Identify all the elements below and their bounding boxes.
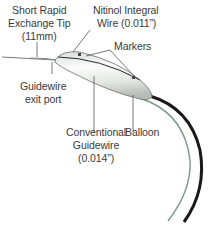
label-conventional-guidewire: Conventional Guidewire (0.014”) bbox=[66, 126, 126, 165]
leader-nitinol bbox=[73, 30, 90, 52]
catheter-shaft bbox=[150, 96, 202, 222]
label-balloon: Balloon bbox=[125, 126, 159, 139]
label-nitinol-integral-wire: Nitinol Integral Wire (0.011”) bbox=[93, 4, 159, 30]
label-short-rapid-exchange-tip: Short Rapid Exchange Tip (11mm) bbox=[8, 4, 70, 43]
leader-markers-1 bbox=[86, 50, 110, 56]
label-markers: Markers bbox=[114, 40, 151, 53]
balloon-body bbox=[55, 52, 152, 100]
label-guidewire-exit-port: Guidewire exit port bbox=[20, 80, 66, 106]
marker-distal bbox=[132, 76, 135, 79]
marker-proximal bbox=[78, 53, 81, 56]
